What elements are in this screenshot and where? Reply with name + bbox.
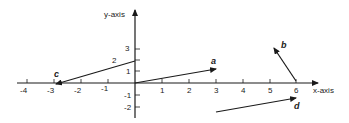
x-tick-label: -4 <box>20 87 27 95</box>
annotation-2: 2 <box>112 57 116 65</box>
vector-c <box>56 61 135 84</box>
x-tick-label: -3 <box>47 87 54 95</box>
x-tick-label: 2 <box>187 87 191 95</box>
x-tick-label: 4 <box>241 87 245 95</box>
x-tick-label: -1 <box>101 85 108 93</box>
y-tick-label: 3 <box>125 45 129 53</box>
y-tick-label: -1 <box>124 92 131 100</box>
vector-b-label: b <box>281 41 287 50</box>
x-tick-label: 3 <box>214 87 218 95</box>
y-ticks <box>135 49 140 107</box>
vector-d-label: d <box>294 102 300 111</box>
x-tick-label: -2 <box>74 87 81 95</box>
vector-b <box>274 48 296 81</box>
vector-a-label: a <box>211 57 216 66</box>
vector-c-label: c <box>54 70 59 79</box>
y-tick-label: -2 <box>124 104 131 112</box>
x-tick-label: 5 <box>268 87 272 95</box>
vector-d <box>216 98 296 112</box>
y-axis-title: y-axis <box>104 11 125 19</box>
vector-diagram: y-axis x-axis -4 -3 -2 -1 1 2 3 4 5 6 3 … <box>0 0 349 123</box>
vector-a <box>135 69 216 83</box>
x-tick-label: 1 <box>160 87 164 95</box>
x-axis-title: x-axis <box>313 87 334 95</box>
y-tick-label: 1 <box>126 68 130 76</box>
x-tick-label: 6 <box>294 87 298 95</box>
